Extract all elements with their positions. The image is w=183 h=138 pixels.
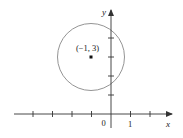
origin-label: 0: [102, 118, 106, 128]
coordinate-plane: (−1, 3) y x 0 1: [0, 0, 183, 138]
center-point: [90, 56, 93, 59]
x-tick-label-1: 1: [128, 119, 132, 129]
point-label: (−1, 3): [76, 43, 99, 53]
y-axis-label: y: [101, 7, 106, 17]
x-axis-label: x: [165, 119, 170, 129]
